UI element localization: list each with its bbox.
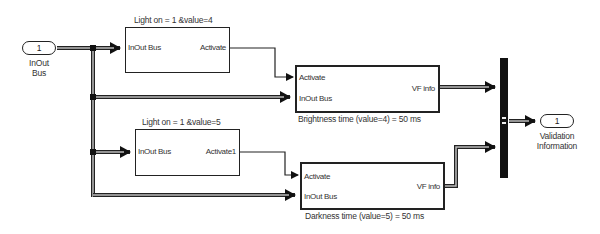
block2-out-port: VF info: [412, 84, 435, 93]
inport-label: InOut Bus: [18, 58, 60, 78]
block3-out-port: Activate1: [206, 147, 236, 156]
block2-in-port-bus: InOut Bus: [299, 94, 332, 103]
block3-title: Light on = 1 &value=5: [142, 117, 221, 127]
inport-1[interactable]: 1: [22, 41, 56, 55]
light-on-value4-block[interactable]: InOut Bus Activate: [125, 27, 230, 73]
brightness-time-block[interactable]: Activate InOut Bus VF info: [295, 65, 440, 113]
block4-in-port-activate: Activate: [304, 172, 330, 181]
outport-label: Validation Information: [530, 131, 584, 151]
light-on-value5-block[interactable]: InOut Bus Activate1: [135, 129, 240, 176]
block1-in-port: InOut Bus: [128, 43, 161, 52]
block3-in-port: InOut Bus: [138, 147, 171, 156]
inport-number: 1: [37, 43, 42, 53]
block2-in-port-activate: Activate: [299, 73, 325, 82]
block1-out-port: Activate: [200, 43, 226, 52]
outport-number: 1: [555, 116, 560, 126]
outport-1[interactable]: 1: [540, 114, 574, 128]
darkness-time-block[interactable]: Activate InOut Bus VF info: [300, 162, 445, 210]
block2-caption: Brightness time (value=4) = 50 ms: [298, 114, 421, 124]
block4-out-port: VF info: [417, 182, 440, 191]
block4-in-port-bus: InOut Bus: [304, 192, 337, 201]
block4-caption: Darkness time (value=5) = 50 ms: [305, 211, 424, 221]
block1-title: Light on = 1 &value=4: [134, 15, 213, 25]
